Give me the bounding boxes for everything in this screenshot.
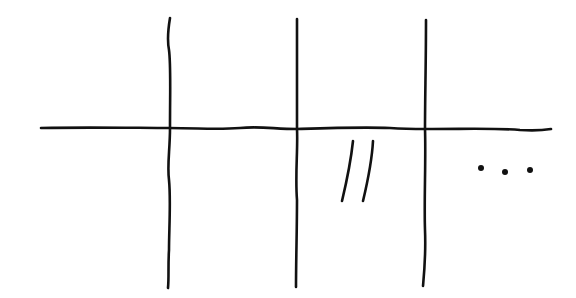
cell-marks [342, 141, 373, 201]
vertical-line-1 [168, 18, 170, 288]
slash-mark-1 [342, 141, 353, 201]
ellipsis-dot-2 [502, 169, 508, 175]
vertical-line-2 [296, 19, 297, 287]
ellipsis-dot-1 [478, 165, 484, 171]
slash-mark-2 [363, 141, 373, 201]
ellipsis-dots [478, 165, 533, 175]
vertical-lines [168, 18, 426, 288]
hand-drawn-grid-sketch [0, 0, 576, 298]
ellipsis-dot-3 [527, 167, 533, 173]
vertical-line-3 [423, 20, 426, 286]
